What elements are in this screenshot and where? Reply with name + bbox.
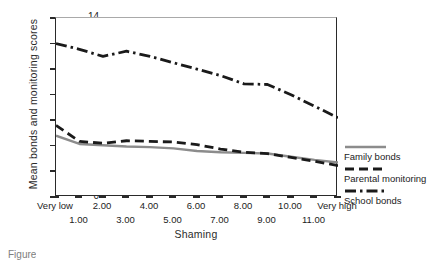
y-axis-title: Mean bonds and monitoring scores [27,9,39,199]
legend-label: Parental monitoring [344,173,440,185]
x-tick-label: 11.00 [286,214,342,225]
x-tick-mark [240,196,247,198]
legend-item: School bonds [344,186,440,207]
dash-dot-black-line-swatch [344,186,406,195]
x-tick-mark [169,196,176,198]
series-line-school-bonds [56,44,338,118]
legend-label: Family bonds [344,151,440,163]
x-tick-mark [287,196,294,198]
x-tick-mark [263,196,270,198]
x-tick-mark [52,196,59,198]
x-tick-mark [216,196,223,198]
figure-caption: Figure [8,249,36,260]
x-tick-mark [99,196,106,198]
dashed-black-line-swatch [344,164,406,173]
x-tick-mark [146,196,153,198]
x-tick-mark [193,196,200,198]
legend-item: Family bonds [344,142,440,163]
legend-label: School bonds [344,195,440,207]
x-tick-mark [75,196,82,198]
series-lines [56,18,338,197]
x-axis-title: Shaming [55,228,337,240]
plot-area [55,17,337,196]
x-tick-mark [310,196,317,198]
x-tick-mark [122,196,129,198]
chart-legend: Family bondsParental monitoringSchool bo… [344,142,440,208]
legend-item: Parental monitoring [344,164,440,185]
x-tick-mark [334,196,341,198]
solid-gray-line-swatch [344,142,406,151]
chart-figure: Mean bonds and monitoring scores 0246810… [0,0,440,260]
